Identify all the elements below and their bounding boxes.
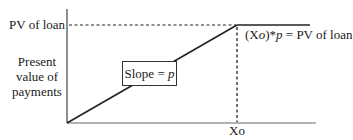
- slope-annotation-box: Slope = p: [122, 61, 177, 86]
- pv-of-loan-label: PV of loan: [9, 18, 65, 32]
- equation-part-1: (X: [245, 27, 259, 42]
- equation-part-5: = PV of loan: [283, 27, 353, 42]
- slope-symbol: p: [168, 66, 175, 81]
- equation-annotation: (Xo)*p = PV of loan: [245, 28, 353, 42]
- y-axis-title-line-3: payments: [8, 84, 66, 99]
- slope-prefix: Slope =: [125, 66, 168, 81]
- y-axis-title-line-1: Present: [8, 54, 66, 69]
- y-axis-title: Present value of payments: [8, 54, 66, 99]
- equation-part-3: )*: [265, 27, 276, 42]
- y-axis-title-line-2: value of: [8, 69, 66, 84]
- x-axis-xo-label: Xo: [229, 124, 245, 138]
